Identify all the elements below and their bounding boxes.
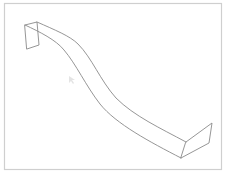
viewport-frame <box>5 4 222 170</box>
model-canvas[interactable] <box>0 0 225 173</box>
cad-viewport[interactable] <box>0 0 225 173</box>
